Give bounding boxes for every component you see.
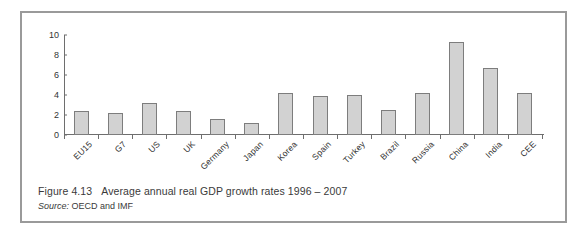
bar-japan bbox=[244, 123, 259, 135]
x-label-germany: Germany bbox=[198, 139, 231, 172]
y-tick-label-0: 0 bbox=[54, 130, 64, 140]
x-label-india: India bbox=[483, 139, 504, 160]
bar-india bbox=[483, 68, 498, 135]
y-tick-mark-4 bbox=[64, 95, 67, 96]
bar-g7 bbox=[108, 113, 123, 135]
x-tick-mark-4 bbox=[201, 135, 202, 139]
x-label-japan: Japan bbox=[241, 139, 265, 163]
bar-korea bbox=[278, 93, 293, 135]
x-label-g7: G7 bbox=[113, 139, 128, 154]
x-label-spain: Spain bbox=[310, 139, 333, 162]
x-tick-mark-6 bbox=[269, 135, 270, 139]
x-label-russia: Russia bbox=[409, 139, 435, 165]
figure-title: Average annual real GDP growth rates 199… bbox=[101, 185, 347, 197]
figure-caption: Figure 4.13 Average annual real GDP grow… bbox=[38, 185, 555, 197]
x-label-cee: CEE bbox=[518, 139, 538, 159]
x-label-brazil: Brazil bbox=[378, 139, 401, 162]
bar-russia bbox=[415, 93, 430, 135]
x-label-korea: Korea bbox=[275, 139, 299, 163]
plot-region: 0246810 bbox=[64, 35, 542, 135]
y-tick-label-4: 4 bbox=[54, 90, 64, 100]
figure-frame: 0246810 EU15G7USUKGermanyJapanKoreaSpain… bbox=[20, 11, 567, 223]
y-tick-label-8: 8 bbox=[54, 50, 64, 60]
y-tick-label-10: 10 bbox=[49, 30, 64, 40]
y-tick-mark-2 bbox=[64, 115, 67, 116]
x-tick-mark-7 bbox=[303, 135, 304, 139]
bar-uk bbox=[176, 111, 191, 135]
x-tick-mark-0 bbox=[64, 135, 65, 139]
x-tick-mark-13 bbox=[508, 135, 509, 139]
bar-brazil bbox=[381, 110, 396, 135]
bar-us bbox=[142, 103, 157, 135]
y-tick-label-6: 6 bbox=[54, 70, 64, 80]
x-tick-mark-8 bbox=[337, 135, 338, 139]
x-tick-mark-10 bbox=[405, 135, 406, 139]
bar-germany bbox=[210, 119, 225, 135]
bar-china bbox=[449, 42, 464, 135]
figure-source: Source: OECD and IMF bbox=[38, 201, 555, 211]
x-label-eu15: EU15 bbox=[71, 139, 94, 162]
chart-area: 0246810 EU15G7USUKGermanyJapanKoreaSpain… bbox=[22, 13, 565, 183]
y-tick-label-2: 2 bbox=[54, 110, 64, 120]
x-label-us: US bbox=[147, 139, 163, 155]
y-tick-mark-6 bbox=[64, 75, 67, 76]
x-tick-mark-3 bbox=[166, 135, 167, 139]
source-value: OECD and IMF bbox=[72, 201, 134, 211]
x-label-china: China bbox=[446, 139, 469, 162]
x-tick-mark-5 bbox=[235, 135, 236, 139]
figure-number: Figure 4.13 bbox=[38, 185, 92, 197]
x-tick-mark-end bbox=[542, 135, 543, 139]
bar-spain bbox=[313, 96, 328, 135]
x-tick-mark-2 bbox=[132, 135, 133, 139]
source-label: Source: bbox=[38, 201, 69, 211]
y-tick-mark-8 bbox=[64, 55, 67, 56]
bar-cee bbox=[517, 93, 532, 135]
x-label-uk: UK bbox=[181, 139, 197, 155]
x-label-turkey: Turkey bbox=[341, 139, 367, 165]
x-tick-mark-11 bbox=[440, 135, 441, 139]
x-tick-mark-9 bbox=[371, 135, 372, 139]
x-tick-mark-1 bbox=[98, 135, 99, 139]
caption-block: Figure 4.13 Average annual real GDP grow… bbox=[38, 185, 555, 211]
bar-eu15 bbox=[74, 111, 89, 135]
bar-turkey bbox=[347, 95, 362, 135]
y-tick-mark-10 bbox=[64, 35, 67, 36]
x-tick-mark-12 bbox=[474, 135, 475, 139]
